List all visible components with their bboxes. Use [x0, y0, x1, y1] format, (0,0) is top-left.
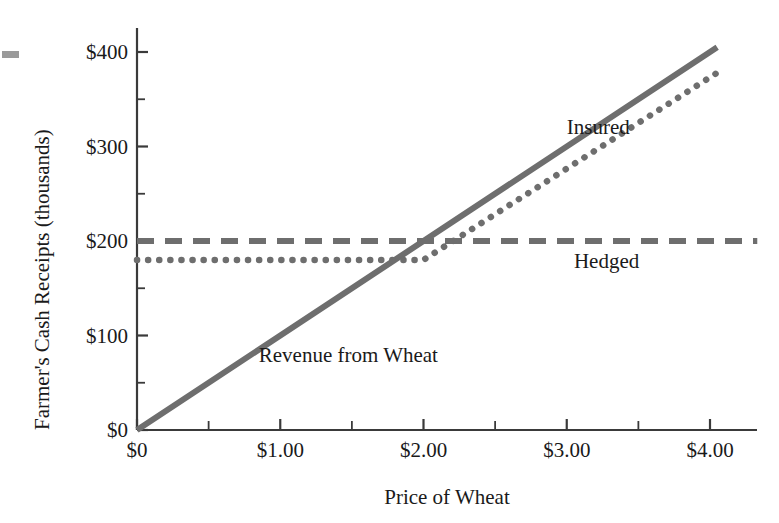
- x-axis-title: Price of Wheat: [384, 487, 510, 508]
- data-series-layer: [137, 47, 757, 430]
- y-tick-label-0: $0: [60, 420, 128, 441]
- y-axis-title: Farmer's Cash Receipts (thousands): [32, 129, 53, 430]
- x-tick-label-6: $3.00: [543, 440, 590, 461]
- chart-figure: $0$100$200$300$400 $0$1.00$2.00$3.00$4.0…: [0, 0, 779, 523]
- annotation-revenue-from-wheat: Revenue from Wheat: [259, 345, 438, 366]
- y-tick-label-8: $400: [60, 42, 128, 63]
- x-tick-label-4: $2.00: [400, 440, 447, 461]
- x-tick-label-2: $1.00: [257, 440, 304, 461]
- x-axis-ticks: [137, 419, 710, 430]
- x-tick-label-8: $4.00: [686, 440, 733, 461]
- plot-area: [0, 0, 779, 523]
- annotation-hedged: Hedged: [574, 251, 639, 272]
- y-tick-label-6: $300: [60, 136, 128, 157]
- annotation-insured: Insured: [567, 117, 630, 138]
- y-tick-label-4: $200: [60, 231, 128, 252]
- y-tick-label-2: $100: [60, 325, 128, 346]
- x-tick-label-0: $0: [127, 440, 148, 461]
- series-line-insured: [137, 73, 717, 260]
